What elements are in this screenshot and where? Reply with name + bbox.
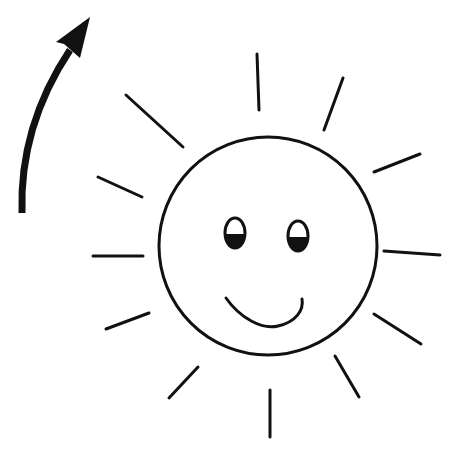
sun-smile [226, 298, 302, 327]
left-eye [223, 218, 247, 251]
right-eye [286, 221, 310, 254]
sun-rays [93, 54, 440, 437]
arrow-head [56, 17, 90, 58]
sun-drawing [0, 0, 450, 456]
sun-ray [106, 313, 149, 329]
sun-ray [384, 251, 440, 255]
sun-ray [169, 367, 198, 398]
arrow-shaft [22, 50, 70, 213]
sun-ray [257, 54, 259, 110]
sun-illustration [0, 0, 450, 456]
sun-ray [374, 314, 421, 344]
sun-ray [335, 356, 359, 397]
sun-ray [126, 95, 183, 147]
sun-ray [98, 177, 142, 197]
sun-face-circle [159, 137, 377, 355]
sun-ray [324, 78, 343, 130]
sun-eyes [223, 218, 310, 254]
sun-ray [374, 154, 420, 172]
curved-arrow-icon [22, 17, 90, 213]
